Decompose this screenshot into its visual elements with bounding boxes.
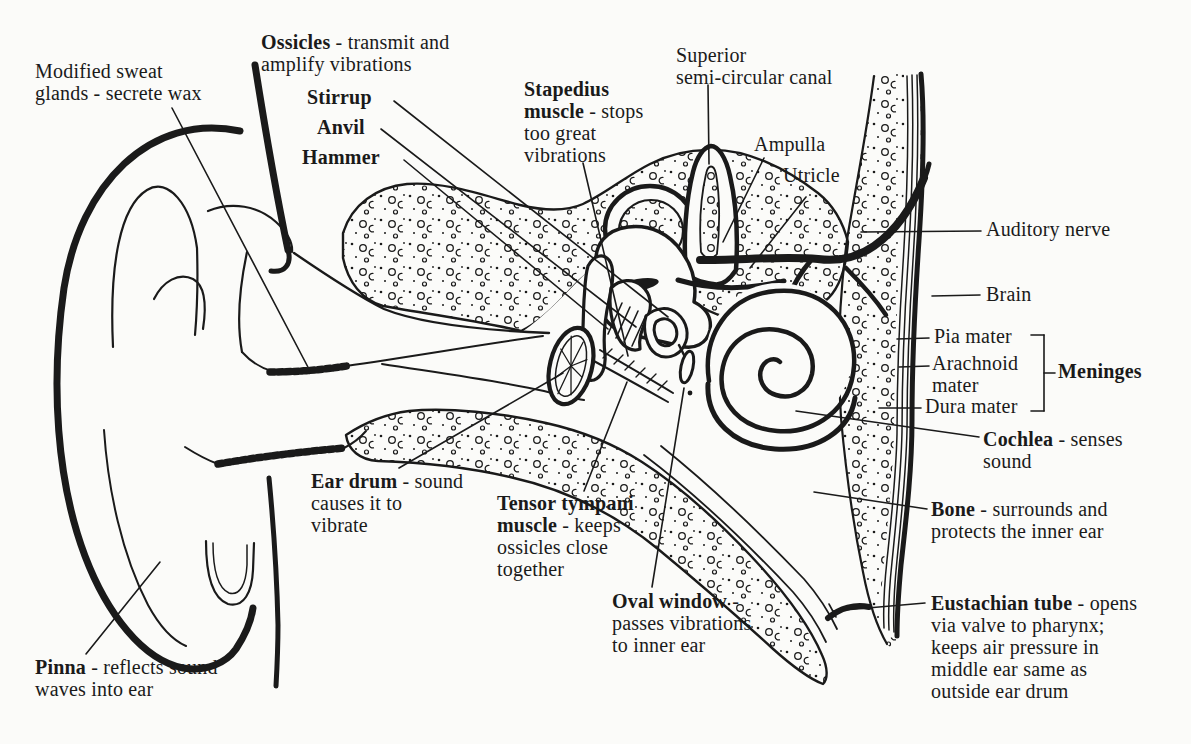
label-dura-mater: Dura mater: [925, 395, 1018, 417]
label-auditory-nerve: Auditory nerve: [986, 218, 1110, 240]
label-utricle: Utricle: [783, 164, 840, 186]
label-brain: Brain: [986, 283, 1031, 305]
label-anvil: Anvil: [317, 116, 365, 138]
label-cochlea: Cochlea - sensessound: [983, 428, 1123, 472]
label-eustachian-tube: Eustachian tube - opensvia valve to phar…: [931, 592, 1137, 702]
label-meninges: Meninges: [1058, 360, 1142, 382]
label-pia-mater: Pia mater: [934, 325, 1012, 347]
label-stirrup: Stirrup: [307, 86, 372, 108]
label-pinna: Pinna - reflects soundwaves into ear: [35, 656, 218, 700]
label-oval-window: Oval window -passes vibrationsto inner e…: [612, 590, 752, 656]
ear-anatomy-diagram: Modified sweatglands - secrete waxOssicl…: [0, 0, 1191, 744]
label-hammer: Hammer: [302, 146, 380, 168]
label-stapedius-muscle: Stapediusmuscle - stopstoo greatvibratio…: [524, 78, 643, 166]
label-ear-drum: Ear drum - soundcauses it tovibrate: [311, 470, 463, 536]
label-superior-semicircular-canal: Superiorsemi-circular canal: [676, 44, 833, 88]
label-ampulla: Ampulla: [754, 133, 825, 155]
label-tensor-tympani-muscle: Tensor tympanimuscle - keepsossicles clo…: [497, 492, 634, 580]
label-ossicles: Ossicles - transmit andamplify vibration…: [261, 31, 449, 75]
label-bone: Bone - surrounds andprotects the inner e…: [931, 498, 1108, 542]
annotation-labels: Modified sweatglands - secrete waxOssicl…: [0, 0, 1191, 744]
label-arachnoid-mater: Arachnoidmater: [932, 352, 1018, 396]
label-modified-sweat-glands: Modified sweatglands - secrete wax: [35, 60, 202, 104]
